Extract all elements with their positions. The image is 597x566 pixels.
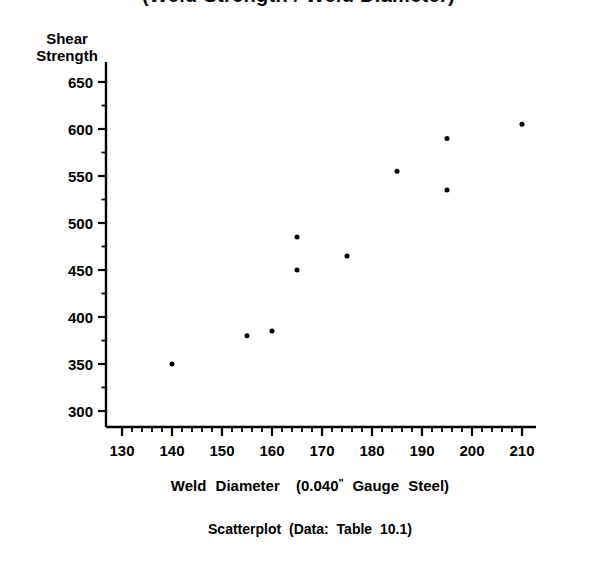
x-axis-title-word-2: Diameter xyxy=(216,477,280,494)
y-tick-label: 550 xyxy=(68,168,93,185)
data-point xyxy=(520,122,525,127)
x-axis-title-word-1: Weld xyxy=(171,477,207,494)
y-tick-label: 350 xyxy=(68,356,93,373)
data-point xyxy=(270,329,275,334)
plot-area: 3003504004505005506006501301401501601701… xyxy=(0,0,597,470)
y-tick-label: 500 xyxy=(68,215,93,232)
x-axis-title-word-3: (0.040 xyxy=(296,477,339,494)
x-tick-label: 170 xyxy=(309,442,334,459)
data-point xyxy=(245,333,250,338)
figure-caption: Scatterplot (Data: Table 10.1) xyxy=(60,521,560,537)
x-tick-label: 130 xyxy=(109,442,134,459)
data-point-group xyxy=(170,122,525,367)
x-axis-title-word-5: Steel) xyxy=(408,477,449,494)
x-tick-label: 140 xyxy=(159,442,184,459)
data-point xyxy=(345,253,350,258)
x-tick-label: 190 xyxy=(409,442,434,459)
scatterplot-figure: (Weld Strength / Weld Diameter) Shear St… xyxy=(0,0,597,566)
x-tick-label: 210 xyxy=(509,442,534,459)
data-point xyxy=(445,188,450,193)
data-point xyxy=(295,268,300,273)
y-tick-label: 600 xyxy=(68,121,93,138)
caption-word-2: (Data: xyxy=(289,521,329,537)
data-point xyxy=(170,362,175,367)
y-tick-label: 650 xyxy=(68,74,93,91)
y-tick-label: 400 xyxy=(68,309,93,326)
inch-mark-symbol: " xyxy=(339,477,344,489)
x-axis-title-word-4: Gauge xyxy=(352,477,399,494)
data-point xyxy=(445,136,450,141)
y-tick-label: 300 xyxy=(68,403,93,420)
x-tick-label: 180 xyxy=(359,442,384,459)
x-tick-label: 150 xyxy=(209,442,234,459)
caption-word-3: Table xyxy=(337,521,373,537)
x-tick-label: 200 xyxy=(459,442,484,459)
y-tick-label: 450 xyxy=(68,262,93,279)
x-tick-label: 160 xyxy=(259,442,284,459)
data-point xyxy=(295,235,300,240)
data-point xyxy=(395,169,400,174)
caption-word-1: Scatterplot xyxy=(208,521,281,537)
caption-word-4: 10.1) xyxy=(380,521,412,537)
x-axis-title: Weld Diameter (0.040" Gauge Steel) xyxy=(60,477,560,494)
